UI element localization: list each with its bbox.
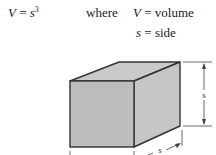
cube-diagram: s s — [0, 0, 216, 155]
arrow-up-icon — [202, 63, 206, 69]
arrow-right-icon — [175, 143, 181, 148]
cube-front-face — [70, 81, 134, 147]
depth-label: s — [158, 145, 162, 155]
height-label: s — [202, 90, 206, 100]
arrow-down-icon — [202, 119, 206, 125]
depth-dimension-line-left — [148, 153, 153, 155]
